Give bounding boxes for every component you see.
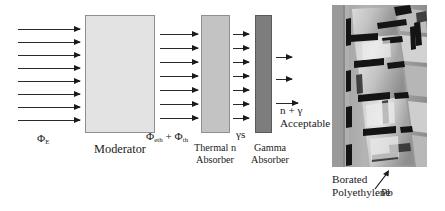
output-arrow — [276, 79, 292, 80]
incident-flux-label: ΦE — [37, 132, 49, 145]
incident-flux-symbol: Φ — [37, 132, 45, 144]
post-thermal-arrow — [233, 34, 249, 35]
post-moderator-arrow — [160, 90, 198, 91]
post-moderator-arrow — [160, 118, 198, 119]
output-label-line1: n + γ — [280, 104, 302, 116]
eth-flux-subscript: eth — [154, 136, 162, 144]
gamma-absorber-label-line2: Absorber — [251, 154, 289, 165]
incident-flux-subscript: E — [45, 138, 49, 146]
output-arrow — [276, 57, 292, 58]
post-thermal-arrow — [233, 76, 249, 77]
moderator-label: Moderator — [85, 142, 155, 157]
photo-material-line1: Borated — [332, 173, 367, 185]
shielding-photograph — [332, 5, 427, 167]
flux-plus-sign: + — [163, 130, 175, 142]
thermal-absorber-label: Thermal n Absorber — [186, 142, 244, 166]
figure-canvas: ΦE Moderator Φeth + Φth Thermal n Absorb… — [0, 0, 445, 211]
output-label: n + γ Acceptable — [280, 104, 330, 130]
incident-arrow — [18, 120, 80, 121]
incident-arrow — [18, 68, 80, 69]
post-thermal-arrow — [233, 62, 249, 63]
moderator-block — [85, 15, 155, 133]
incident-arrow — [18, 42, 80, 43]
post-moderator-arrow — [160, 62, 198, 63]
post-thermal-arrow — [233, 48, 249, 49]
post-moderator-arrow — [160, 48, 198, 49]
gamma-absorber-block — [255, 15, 272, 133]
thermal-absorber-label-line1: Thermal n — [194, 142, 236, 153]
incident-arrow — [18, 81, 80, 82]
post-moderator-arrow — [160, 34, 198, 35]
incident-arrow — [18, 55, 80, 56]
post-moderator-arrow — [160, 76, 198, 77]
incident-arrow — [18, 29, 80, 30]
gamma-flux-label: γs — [236, 128, 245, 141]
post-thermal-arrow — [233, 90, 249, 91]
gamma-absorber-label-line1: Gamma — [254, 142, 286, 153]
post-moderator-flux-label: Φeth + Φth — [146, 130, 188, 143]
pb-label: Pb — [381, 186, 393, 199]
eth-flux-symbol: Φ — [146, 130, 154, 142]
post-thermal-arrow — [233, 118, 249, 119]
incident-arrow — [18, 94, 80, 95]
post-thermal-arrow — [233, 104, 249, 105]
output-label-line2: Acceptable — [280, 117, 330, 129]
thermal-neutron-absorber-block — [201, 15, 230, 133]
gamma-absorber-label: Gamma Absorber — [244, 142, 296, 166]
thermal-absorber-label-line2: Absorber — [196, 154, 234, 165]
post-moderator-arrow — [160, 104, 198, 105]
incident-arrow — [18, 107, 80, 108]
th-flux-symbol: Φ — [175, 130, 183, 142]
